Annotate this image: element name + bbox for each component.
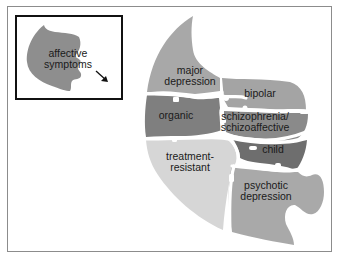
label-line: bipolar <box>244 88 276 99</box>
label-line: depression <box>240 191 291 202</box>
label-line: symptoms <box>44 59 92 70</box>
schizophrenia-label: schizophrenia/ schizoaffective <box>221 111 290 133</box>
label-line: resistant <box>166 162 214 173</box>
treatment-resistant-label: treatment- resistant <box>166 151 214 173</box>
label-line: depression <box>164 76 215 87</box>
region-psychotic-depression <box>229 166 324 245</box>
affective-symptoms-label: affective symptoms <box>44 48 92 70</box>
organic-label: organic <box>159 110 193 121</box>
puzzle-diagram <box>0 0 341 258</box>
major-depression-label: major depression <box>164 65 215 87</box>
label-line: organic <box>159 110 193 121</box>
arrow-down-right-icon <box>96 71 108 82</box>
label-line: child <box>262 144 284 155</box>
bipolar-label: bipolar <box>244 88 276 99</box>
psychotic-depression-label: psychotic depression <box>240 180 291 202</box>
child-label: child <box>262 144 284 155</box>
label-line: schizoaffective <box>221 122 290 133</box>
